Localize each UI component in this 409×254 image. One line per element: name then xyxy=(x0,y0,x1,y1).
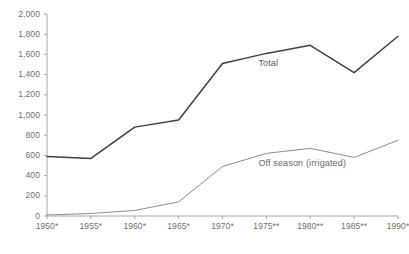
x-axis-tick-label: 1965* xyxy=(167,222,190,231)
series-line-total xyxy=(47,36,398,158)
x-axis-tick-label: 1975** xyxy=(253,222,279,231)
series-label-off-season-irrigated: Off season (irrigated) xyxy=(258,159,346,168)
x-axis-tick-label: 1960* xyxy=(123,222,146,231)
x-axis-tick-label: 1955* xyxy=(80,222,103,231)
series-label-total: Total xyxy=(258,59,278,68)
x-axis-tick-label: 1980** xyxy=(297,222,323,231)
x-axis-tick-label: 1970* xyxy=(211,222,234,231)
x-axis-tick-label: 1985** xyxy=(341,222,367,231)
x-axis-tick-label: 1990* xyxy=(387,222,409,231)
x-axis-tick-label: 1950* xyxy=(36,222,59,231)
x-axis: 1950*1955*1960*1965*1970*1975**1980**198… xyxy=(0,222,407,242)
